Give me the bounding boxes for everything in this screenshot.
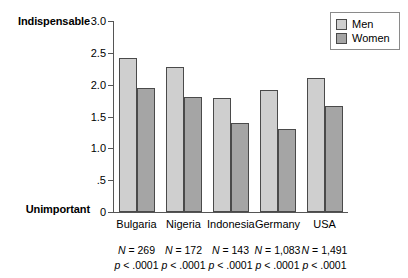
y-axis-tick-label: .5: [97, 174, 106, 186]
x-axis-category-label: Indonesia: [207, 218, 254, 230]
x-axis-line: [113, 212, 348, 213]
y-axis-tick: [108, 21, 113, 22]
bar-usa-men: [307, 78, 325, 212]
x-axis-category-label: Nigeria: [160, 218, 207, 230]
y-axis-tick: [108, 148, 113, 149]
y-axis-tick-label: 2.5: [91, 47, 106, 59]
sample-size-label: N = 1,491: [293, 244, 356, 256]
axis-anchor-high-label: Indispensable: [4, 15, 90, 27]
bar-nigeria-women: [184, 97, 202, 212]
y-axis-tick-label: 1.0: [91, 142, 106, 154]
bar-germany-women: [278, 129, 296, 212]
legend-item-men[interactable]: Men: [336, 17, 394, 31]
plot-area: 0.51.01.52.02.53.0: [113, 21, 348, 212]
y-axis-tick-label: 1.5: [91, 111, 106, 123]
legend: Men Women: [330, 12, 400, 50]
x-axis-category-label: USA: [301, 218, 348, 230]
y-axis-tick-label: 0: [100, 206, 106, 218]
y-axis-tick-label: 3.0: [91, 15, 106, 27]
y-axis-tick: [108, 212, 113, 213]
y-axis-tick: [108, 180, 113, 181]
y-axis-tick: [108, 117, 113, 118]
legend-swatch-men-icon: [336, 19, 347, 30]
x-axis-category-label: Bulgaria: [113, 218, 160, 230]
y-axis-line: [113, 21, 114, 212]
bar-bulgaria-women: [137, 88, 155, 212]
bar-germany-men: [260, 90, 278, 212]
bar-bulgaria-men: [119, 58, 137, 212]
y-axis-tick: [108, 53, 113, 54]
axis-anchor-low-label: Unimportant: [4, 203, 90, 215]
bar-indonesia-women: [231, 123, 249, 212]
legend-label-men: Men: [352, 19, 373, 30]
bar-nigeria-men: [166, 67, 184, 212]
bar-usa-women: [325, 106, 343, 212]
bar-chart: Indispensable Unimportant 0.51.01.52.02.…: [0, 0, 408, 278]
legend-label-women: Women: [352, 33, 390, 44]
bar-indonesia-men: [213, 98, 231, 212]
y-axis-tick: [108, 85, 113, 86]
legend-swatch-women-icon: [336, 33, 347, 44]
x-axis-category-label: Germany: [254, 218, 301, 230]
legend-item-women[interactable]: Women: [336, 31, 394, 45]
y-axis-tick-label: 2.0: [91, 79, 106, 91]
p-value-label: p < .0001: [293, 259, 356, 271]
